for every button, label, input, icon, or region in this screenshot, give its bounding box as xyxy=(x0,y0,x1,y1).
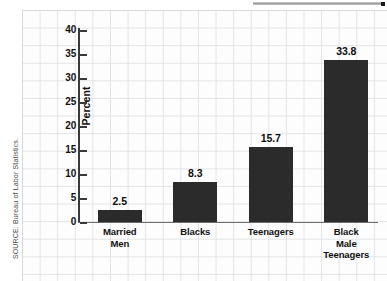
y-axis-tick-mark xyxy=(80,126,87,128)
top-rule-artifact xyxy=(253,2,385,5)
y-axis-tick-mark xyxy=(80,78,87,80)
bar-value-label: 33.8 xyxy=(310,45,382,57)
top-rule-end-cap xyxy=(381,2,385,6)
y-axis-tick-label: 0 xyxy=(54,216,76,227)
bar-value-label: 2.5 xyxy=(84,195,156,207)
x-axis-line xyxy=(78,222,378,223)
chart-plot-area: Percent 4035302520151050 2.5MarriedMen8.… xyxy=(78,30,380,222)
bar[interactable] xyxy=(324,60,368,222)
bar[interactable] xyxy=(98,210,142,222)
bar-value-label: 8.3 xyxy=(159,167,231,179)
y-axis-tick-mark xyxy=(80,54,87,56)
bar-group[interactable]: 15.7Teenagers xyxy=(249,30,293,222)
y-axis-tick-mark xyxy=(80,174,87,176)
bar-group[interactable]: 2.5MarriedMen xyxy=(98,30,142,222)
y-axis-tick-mark xyxy=(80,102,87,104)
y-axis-tick-label: 10 xyxy=(54,168,76,179)
y-axis-tick-label: 15 xyxy=(54,144,76,155)
y-axis-tick-label: 5 xyxy=(54,192,76,203)
y-axis-tick-label: 25 xyxy=(54,96,76,107)
bar-group[interactable]: 8.3Blacks xyxy=(173,30,217,222)
y-axis-tick-mark xyxy=(80,222,87,224)
bar[interactable] xyxy=(249,147,293,222)
y-axis-tick-mark xyxy=(80,150,87,152)
bar-value-label: 15.7 xyxy=(235,132,307,144)
y-axis-tick-label: 40 xyxy=(54,24,76,35)
bar-category-line: Teenagers xyxy=(302,249,387,261)
y-axis-tick-mark xyxy=(80,30,87,32)
source-credit: SOURCE: Bureau of Labor Statistics. xyxy=(12,129,19,269)
y-axis-title: Percent xyxy=(80,71,92,141)
y-axis-tick-label: 20 xyxy=(54,120,76,131)
bar-category-line: Black xyxy=(302,226,387,238)
bar-group[interactable]: 33.8BlackMaleTeenagers xyxy=(324,30,368,222)
bar[interactable] xyxy=(173,182,217,222)
bar-category-label: BlackMaleTeenagers xyxy=(302,226,387,261)
bar-category-line: Male xyxy=(302,238,387,250)
y-axis-tick-label: 35 xyxy=(54,48,76,59)
y-axis-tick-label: 30 xyxy=(54,72,76,83)
bar-category-line: Men xyxy=(76,238,164,250)
